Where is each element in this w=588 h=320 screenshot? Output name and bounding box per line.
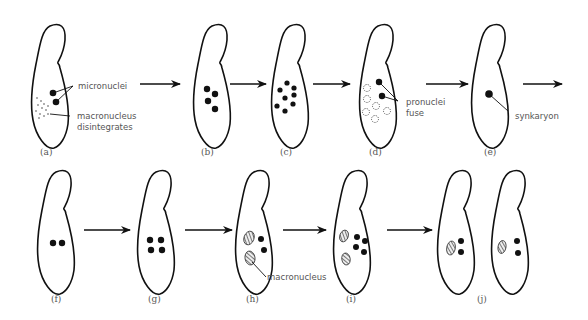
degenerating-nuclei [363, 85, 391, 123]
cell-outline [272, 25, 309, 149]
label-disintegrates: disintegrates [77, 122, 133, 132]
panel-b: (b) [194, 25, 231, 157]
macronucleus-anlage [244, 250, 256, 266]
label-synkaryon: synkaryon [515, 111, 559, 121]
panel-a: micronuclei macronucleus disintegrates (… [32, 25, 138, 157]
cell-outline [438, 171, 475, 295]
label-macronucleus: macronucleus [77, 111, 137, 121]
label-macronucleus: macronucleus [267, 272, 327, 282]
caption-j: (j) [477, 294, 487, 304]
cell-outline [360, 25, 397, 149]
cell-outline [38, 171, 75, 295]
caption-b: (b) [201, 147, 214, 157]
cell-outline [32, 25, 69, 149]
caption-a: (a) [40, 147, 52, 157]
macronucleus [497, 240, 507, 254]
caption-g: (g) [148, 294, 161, 304]
panel-j: (j) [438, 171, 529, 304]
caption-e: (e) [484, 147, 496, 157]
cell-outline [492, 171, 529, 295]
paramecium-diagram: micronuclei macronucleus disintegrates (… [0, 0, 588, 320]
disintegrating-macronucleus [35, 97, 48, 118]
panel-d: pronuclei fuse (d) [360, 25, 446, 157]
macronucleus [446, 240, 457, 255]
macronucleus-anlage [242, 230, 256, 247]
macronucleus-anlage [338, 229, 350, 243]
macronucleus-anlage [341, 252, 351, 265]
label-pronuclei: pronuclei [406, 97, 445, 107]
caption-h: (h) [246, 294, 259, 304]
panel-e: synkaryon (e) [472, 25, 559, 157]
caption-d: (d) [369, 147, 382, 157]
panel-h: macronucleus (h) [236, 171, 328, 304]
panel-c: (c) [272, 25, 309, 157]
label-micronuclei: micronuclei [78, 81, 127, 91]
panel-i: (i) [334, 171, 371, 304]
panel-g: (g) [138, 171, 175, 304]
caption-f: (f) [51, 294, 61, 304]
caption-c: (c) [280, 147, 292, 157]
label-fuse: fuse [406, 108, 424, 118]
cell-outline [472, 25, 509, 149]
cell-outline [334, 171, 371, 295]
cell-outline [194, 25, 231, 149]
panel-f: (f) [38, 171, 75, 304]
caption-i: (i) [346, 294, 356, 304]
cell-outline [138, 171, 175, 295]
